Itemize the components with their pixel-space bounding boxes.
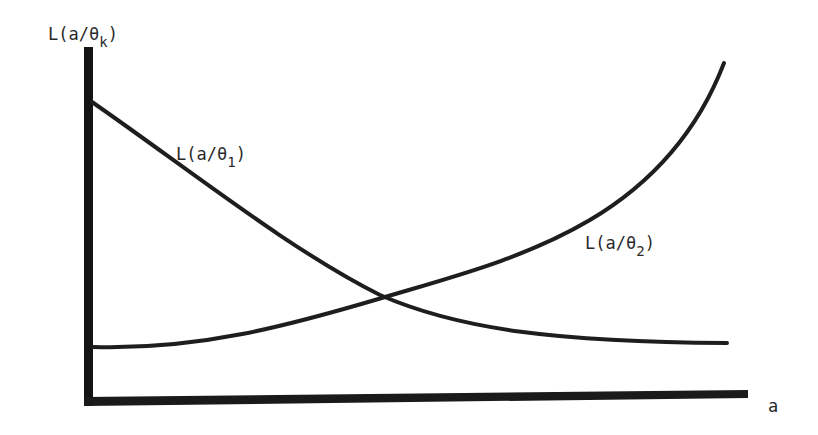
x-axis <box>84 390 748 406</box>
loss-function-chart: L(a/θk) L(a/θ1) L(a/θ2) a <box>0 0 818 435</box>
curve-theta1-label: L(a/θ1) <box>176 144 246 170</box>
curve-theta2-label: L(a/θ2) <box>585 233 655 259</box>
curve-theta1 <box>92 102 727 343</box>
y-axis-label: L(a/θk) <box>48 24 118 50</box>
x-axis-label: a <box>768 396 778 416</box>
